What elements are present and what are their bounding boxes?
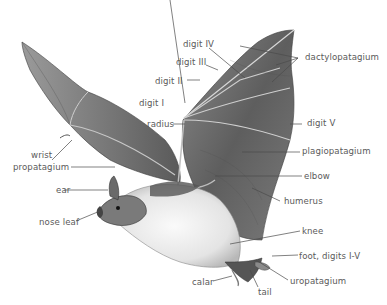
- label-calar: calar: [192, 277, 214, 287]
- label-foot: foot, digits I-V: [299, 251, 360, 261]
- label-elbow: elbow: [304, 171, 330, 181]
- label-digit-i: digit I: [139, 98, 164, 108]
- label-nose-leaf: nose leaf: [39, 217, 79, 227]
- label-radius: radius: [147, 119, 174, 129]
- label-humerus: humerus: [284, 196, 323, 206]
- label-ear: ear: [56, 185, 70, 195]
- label-wrist: wrist: [31, 150, 52, 160]
- label-propatagium: propatagium: [13, 162, 69, 172]
- label-tail: tail: [258, 287, 272, 297]
- label-uropatagium: uropatagium: [290, 276, 346, 286]
- label-digit-v: digit V: [307, 118, 335, 128]
- label-digit-ii: digit II: [155, 76, 183, 86]
- label-digit-iv: digit IV: [183, 39, 214, 49]
- label-plagiopatagium: plagiopatagium: [302, 146, 371, 156]
- left-wing: [22, 42, 180, 182]
- label-digit-iii: digit III: [176, 57, 206, 67]
- bat-anatomy-diagram: digit IV digit III digit II digit I radi…: [0, 0, 387, 305]
- label-dactylopatagium: dactylopatagium: [305, 52, 379, 62]
- label-knee: knee: [302, 226, 323, 236]
